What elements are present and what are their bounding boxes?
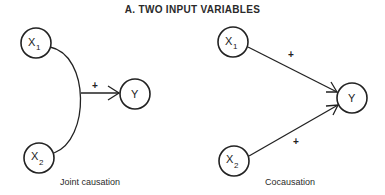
panel-cocausation: + + X 1 X 2 Y [218,27,367,176]
joint-sign: + [92,80,98,91]
panel-joint-causation: + X 1 X 2 Y [21,28,150,173]
svg-text:X: X [31,150,39,162]
node-y: Y [120,79,150,109]
svg-text:1: 1 [233,42,238,51]
node-x1: X 1 [218,27,248,57]
svg-text:Y: Y [131,88,139,100]
svg-text:2: 2 [39,158,44,167]
node-x2: X 2 [219,146,249,176]
node-x2: X 2 [24,143,54,173]
svg-text:Y: Y [348,92,356,104]
svg-text:X: X [28,36,36,48]
caption-joint-causation: Joint causation [40,177,140,187]
causal-diagrams: + X 1 X 2 Y + + X 1 [0,0,385,195]
node-y: Y [337,83,367,113]
caption-cocausation: Cocausation [240,177,340,187]
joint-curve [50,47,81,153]
node-x1: X 1 [21,28,51,58]
sign-x2-y: + [293,136,299,147]
sign-x1-y: + [288,49,294,60]
svg-text:1: 1 [36,43,41,52]
svg-text:X: X [225,35,233,47]
edge-x2-y [249,105,338,156]
svg-text:2: 2 [234,161,239,170]
svg-text:X: X [226,153,234,165]
